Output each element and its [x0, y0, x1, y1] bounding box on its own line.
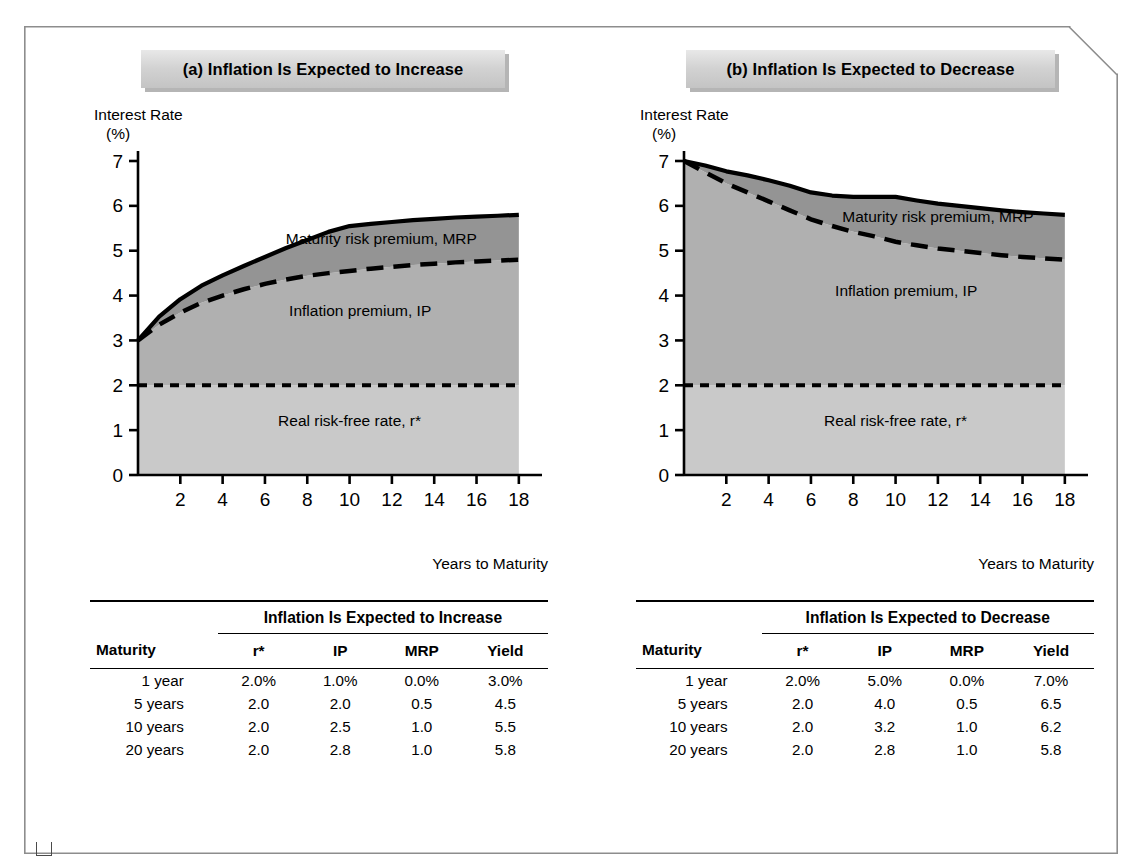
svg-text:8: 8	[848, 489, 859, 510]
table-b-r1-mrp: 0.5	[926, 692, 1008, 715]
table-a-r2-maturity: 10 years	[90, 715, 218, 738]
table-a-r3-rstar: 2.0	[218, 738, 300, 763]
table-row: 1 year 2.0% 5.0% 0.0% 7.0%	[636, 668, 1094, 692]
table-a-r3-yield: 5.8	[463, 738, 548, 763]
table-b-group-header: Inflation Is Expected to Decrease	[762, 602, 1094, 634]
table-b-r2-rstar: 2.0	[762, 715, 844, 738]
table-a-group-header-row: Inflation Is Expected to Increase	[90, 602, 548, 634]
svg-text:1: 1	[658, 420, 669, 441]
figure-page: (a) Inflation Is Expected to Increase (b…	[0, 0, 1143, 866]
table-a-col-maturity: Maturity	[90, 633, 218, 668]
svg-text:4: 4	[763, 489, 774, 510]
svg-text:2: 2	[721, 489, 732, 510]
table-a-header-row: Maturity r* IP MRP Yield	[90, 633, 548, 668]
table-b-r0-yield: 7.0%	[1008, 668, 1094, 692]
table-a-r2-ip: 2.5	[299, 715, 381, 738]
svg-text:1: 1	[112, 420, 123, 441]
table-panel-b: Inflation Is Expected to Decrease Maturi…	[636, 600, 1094, 763]
svg-text:8: 8	[302, 489, 313, 510]
table-a-r1-yield: 4.5	[463, 692, 548, 715]
table-b-r2-mrp: 1.0	[926, 715, 1008, 738]
svg-text:Real risk-free rate, r*: Real risk-free rate, r*	[278, 412, 421, 429]
svg-text:2: 2	[112, 375, 123, 396]
table-b-r2-yield: 6.2	[1008, 715, 1094, 738]
table-b-r1-rstar: 2.0	[762, 692, 844, 715]
svg-text:6: 6	[658, 195, 669, 216]
figure-bottom-marker	[36, 842, 52, 856]
svg-text:14: 14	[424, 489, 446, 510]
table-a-r0-maturity: 1 year	[90, 668, 218, 692]
table-a-col-yield: Yield	[463, 633, 548, 668]
svg-text:14: 14	[970, 489, 992, 510]
svg-text:5: 5	[658, 240, 669, 261]
table-row: 20 years 2.0 2.8 1.0 5.8	[90, 738, 548, 763]
svg-text:4: 4	[217, 489, 228, 510]
chart-b-x-axis-label: Years to Maturity	[978, 555, 1094, 573]
table-a-r2-rstar: 2.0	[218, 715, 300, 738]
table-a-col-mrp: MRP	[381, 633, 463, 668]
table-row: 5 years 2.0 4.0 0.5 6.5	[636, 692, 1094, 715]
table-b-col-maturity: Maturity	[636, 633, 762, 668]
table-b-r3-mrp: 1.0	[926, 738, 1008, 763]
panel-a-title: (a) Inflation Is Expected to Increase	[141, 50, 505, 88]
chart-a-y-axis-unit: (%)	[94, 124, 554, 143]
chart-b-y-axis-label: Interest Rate	[640, 106, 729, 123]
svg-text:18: 18	[508, 489, 529, 510]
chart-panel-a: Interest Rate (%) 0123456724681012141618…	[94, 105, 554, 575]
table-b-r0-mrp: 0.0%	[926, 668, 1008, 692]
svg-text:10: 10	[339, 489, 360, 510]
svg-text:Maturity risk premium, MRP: Maturity risk premium, MRP	[842, 208, 1033, 225]
svg-text:6: 6	[806, 489, 817, 510]
table-a-r0-ip: 1.0%	[299, 668, 381, 692]
svg-text:7: 7	[112, 151, 123, 172]
chart-b-y-axis-unit: (%)	[640, 124, 1100, 143]
chart-b-plot: 0123456724681012141618Maturity risk prem…	[640, 143, 1100, 543]
table-b: Inflation Is Expected to Decrease Maturi…	[636, 602, 1094, 763]
svg-text:2: 2	[175, 489, 186, 510]
chart-b-y-axis-title: Interest Rate (%)	[640, 105, 1100, 143]
table-a-group-header: Inflation Is Expected to Increase	[218, 602, 548, 634]
table-a-col-rstar: r*	[218, 633, 300, 668]
table-a-r3-maturity: 20 years	[90, 738, 218, 763]
table-b-col-ip: IP	[844, 633, 926, 668]
table-b-r1-ip: 4.0	[844, 692, 926, 715]
svg-text:Real risk-free rate, r*: Real risk-free rate, r*	[824, 412, 967, 429]
svg-text:0: 0	[658, 465, 669, 486]
chart-a-y-axis-title: Interest Rate (%)	[94, 105, 554, 143]
table-row: 20 years 2.0 2.8 1.0 5.8	[636, 738, 1094, 763]
svg-text:3: 3	[658, 330, 669, 351]
table-b-r2-ip: 3.2	[844, 715, 926, 738]
table-row: 5 years 2.0 2.0 0.5 4.5	[90, 692, 548, 715]
table-a-r3-mrp: 1.0	[381, 738, 463, 763]
svg-text:4: 4	[658, 285, 669, 306]
table-b-r3-yield: 5.8	[1008, 738, 1094, 763]
svg-text:2: 2	[658, 375, 669, 396]
svg-text:6: 6	[260, 489, 271, 510]
table-a-r0-yield: 3.0%	[463, 668, 548, 692]
table-b-r2-maturity: 10 years	[636, 715, 762, 738]
table-b-group-header-row: Inflation Is Expected to Decrease	[636, 602, 1094, 634]
table-b-r0-maturity: 1 year	[636, 668, 762, 692]
svg-text:10: 10	[885, 489, 906, 510]
svg-text:3: 3	[112, 330, 123, 351]
svg-text:Inflation premium, IP: Inflation premium, IP	[835, 282, 977, 299]
table-a-r3-ip: 2.8	[299, 738, 381, 763]
panel-b-title: (b) Inflation Is Expected to Decrease	[686, 50, 1055, 88]
table-b-col-rstar: r*	[762, 633, 844, 668]
table-row: 1 year 2.0% 1.0% 0.0% 3.0%	[90, 668, 548, 692]
table-a-r1-ip: 2.0	[299, 692, 381, 715]
svg-text:7: 7	[658, 151, 669, 172]
table-row: 10 years 2.0 2.5 1.0 5.5	[90, 715, 548, 738]
table-b-col-mrp: MRP	[926, 633, 1008, 668]
chart-a-y-axis-label: Interest Rate	[94, 106, 183, 123]
chart-a-x-axis-label: Years to Maturity	[432, 555, 548, 573]
svg-text:Inflation premium, IP: Inflation premium, IP	[289, 302, 431, 319]
table-a-r1-maturity: 5 years	[90, 692, 218, 715]
table-b-r0-ip: 5.0%	[844, 668, 926, 692]
table-b-col-yield: Yield	[1008, 633, 1094, 668]
table-a-r0-mrp: 0.0%	[381, 668, 463, 692]
table-a-group-spacer	[90, 602, 218, 634]
svg-text:5: 5	[112, 240, 123, 261]
svg-text:4: 4	[112, 285, 123, 306]
svg-text:6: 6	[112, 195, 123, 216]
